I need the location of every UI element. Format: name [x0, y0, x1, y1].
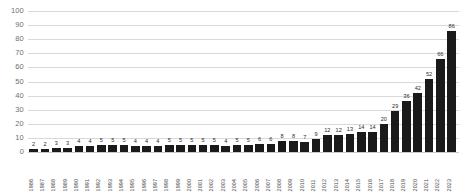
bar[interactable] [188, 145, 197, 152]
bar-slot[interactable]: 362019 [401, 0, 412, 193]
y-tick-label: 80 [0, 35, 24, 43]
bar[interactable] [447, 31, 456, 152]
bar-slot[interactable]: 202017 [378, 0, 389, 193]
bar-value-label: 4 [152, 139, 163, 145]
bar-slot[interactable]: 132014 [344, 0, 355, 193]
bar[interactable] [86, 146, 95, 152]
bar-slot[interactable]: 41991 [84, 0, 95, 193]
bar[interactable] [210, 145, 219, 152]
x-tick-label: 2007 [265, 179, 270, 191]
bar-slot[interactable]: 51998 [164, 0, 175, 193]
bar[interactable] [199, 145, 208, 152]
bar-slot[interactable]: 122012 [322, 0, 333, 193]
bar[interactable] [436, 59, 445, 152]
bar-slot[interactable]: 142016 [367, 0, 378, 193]
x-tick-label: 2016 [367, 179, 372, 191]
bar-slot[interactable]: 82008 [277, 0, 288, 193]
bar[interactable] [108, 145, 117, 152]
bar-slot[interactable]: 92011 [310, 0, 321, 193]
bar-slot[interactable]: 41995 [130, 0, 141, 193]
x-tick-label: 2015 [356, 179, 361, 191]
x-tick-label: 2017 [378, 179, 383, 191]
bar-value-label: 4 [141, 139, 152, 145]
bar[interactable] [75, 146, 84, 152]
bar[interactable] [255, 144, 264, 152]
bar-slot[interactable]: 21986 [28, 0, 39, 193]
bar[interactable] [120, 145, 129, 152]
bar-slot[interactable]: 522021 [423, 0, 434, 193]
bar-slot[interactable]: 82009 [288, 0, 299, 193]
bar[interactable] [312, 139, 321, 152]
bar[interactable] [176, 145, 185, 152]
bar-value-label: 5 [243, 138, 254, 144]
bar-slot[interactable]: 422020 [412, 0, 423, 193]
bar-slot[interactable]: 21987 [39, 0, 50, 193]
bar[interactable] [244, 145, 253, 152]
bar[interactable] [52, 148, 61, 152]
bar-slot[interactable]: 72010 [299, 0, 310, 193]
bar-slot[interactable]: 41997 [152, 0, 163, 193]
bar[interactable] [402, 101, 411, 152]
bar[interactable] [154, 146, 163, 152]
bar-slot[interactable]: 41996 [141, 0, 152, 193]
bar[interactable] [142, 146, 151, 152]
bar-slot[interactable]: 62006 [254, 0, 265, 193]
bar[interactable] [289, 141, 298, 152]
bar-value-label: 12 [333, 128, 344, 134]
bar[interactable] [131, 146, 140, 152]
bar-slot[interactable]: 862023 [446, 0, 457, 193]
bar[interactable] [300, 142, 309, 152]
x-tick-label: 2014 [345, 179, 350, 191]
bar-slot[interactable]: 52002 [209, 0, 220, 193]
bar[interactable] [29, 149, 38, 152]
bar-slot[interactable]: 142015 [356, 0, 367, 193]
bar[interactable] [63, 148, 72, 152]
bar-slot[interactable]: 42003 [220, 0, 231, 193]
bar[interactable] [323, 135, 332, 152]
bar[interactable] [233, 145, 242, 152]
bar-slot[interactable]: 51992 [96, 0, 107, 193]
bar-slot[interactable]: 31988 [51, 0, 62, 193]
bar[interactable] [380, 124, 389, 152]
bar-value-label: 5 [209, 138, 220, 144]
bar[interactable] [97, 145, 106, 152]
bar-slot[interactable]: 62007 [265, 0, 276, 193]
bar[interactable] [346, 134, 355, 152]
x-tick-label: 2011 [311, 179, 316, 191]
bar[interactable] [267, 144, 276, 152]
bar-slot[interactable]: 662022 [435, 0, 446, 193]
bar-slot[interactable]: 292018 [390, 0, 401, 193]
bar-slot[interactable]: 41990 [73, 0, 84, 193]
bar-value-label: 20 [378, 117, 389, 123]
bar-slot[interactable]: 52000 [186, 0, 197, 193]
x-tick-label: 2012 [322, 179, 327, 191]
bar-value-label: 86 [446, 24, 457, 30]
bar[interactable] [278, 141, 287, 152]
bar-slot[interactable]: 52001 [197, 0, 208, 193]
bar[interactable] [391, 111, 400, 152]
x-tick-label: 1992 [96, 179, 101, 191]
bar-slot[interactable]: 122013 [333, 0, 344, 193]
x-tick-label: 2004 [232, 179, 237, 191]
bar-slot[interactable]: 51993 [107, 0, 118, 193]
bar-slot[interactable]: 52005 [243, 0, 254, 193]
bar-slot[interactable]: 51994 [118, 0, 129, 193]
bar[interactable] [165, 145, 174, 152]
x-tick-label: 2009 [288, 179, 293, 191]
bar[interactable] [221, 146, 230, 152]
x-tick-label: 2005 [243, 179, 248, 191]
bar-slot[interactable]: 31989 [62, 0, 73, 193]
x-tick-label: 1996 [141, 179, 146, 191]
bar[interactable] [334, 135, 343, 152]
x-tick-label: 1993 [107, 179, 112, 191]
bar[interactable] [425, 79, 434, 152]
y-tick-label: 60 [0, 63, 24, 71]
x-tick-label: 1995 [130, 179, 135, 191]
bar[interactable] [41, 149, 50, 152]
bar-slot[interactable]: 52004 [231, 0, 242, 193]
bar-slot[interactable]: 51999 [175, 0, 186, 193]
bar[interactable] [413, 93, 422, 152]
bar[interactable] [357, 132, 366, 152]
bar[interactable] [368, 132, 377, 152]
x-tick-label: 2018 [390, 179, 395, 191]
